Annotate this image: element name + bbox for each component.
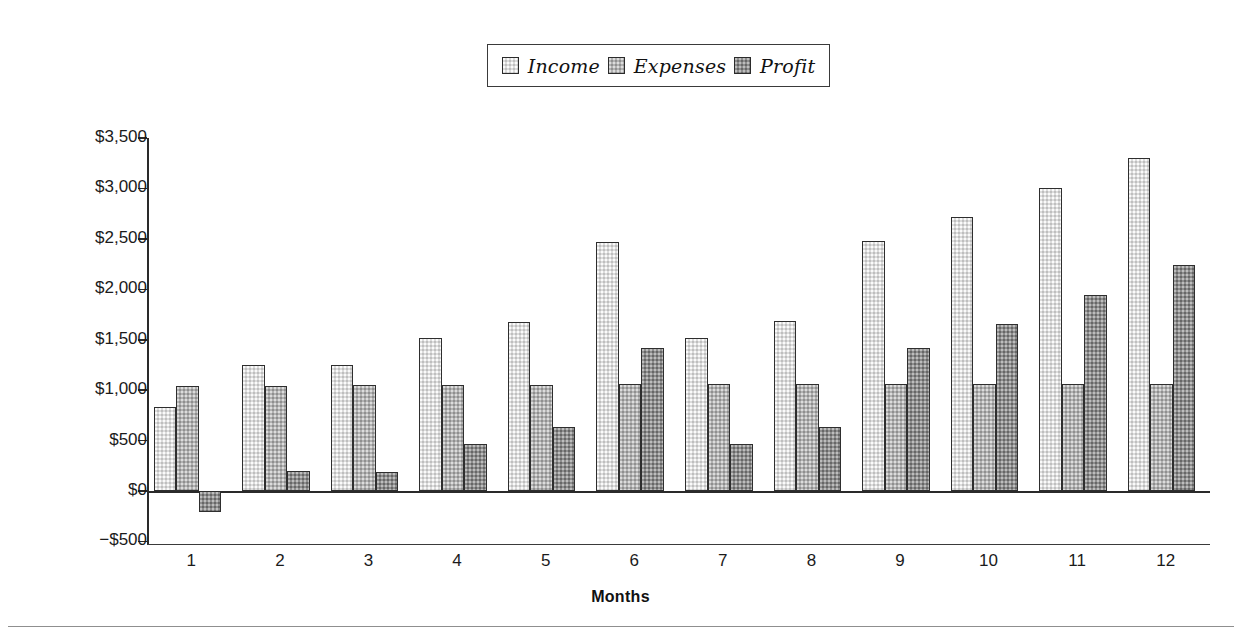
bar-profit xyxy=(996,324,1019,491)
x-tick-label: 5 xyxy=(541,551,550,571)
x-tick-label: 3 xyxy=(364,551,373,571)
bar-income xyxy=(685,338,708,491)
y-tick-label: $2,500 xyxy=(0,228,161,248)
bar-profit xyxy=(641,348,664,491)
bar-expenses xyxy=(973,384,996,491)
y-tick-label: $3,000 xyxy=(0,177,161,197)
bar-income xyxy=(596,242,619,491)
bar-profit xyxy=(819,427,842,491)
bar-income xyxy=(862,241,885,491)
bar-profit xyxy=(1173,265,1196,491)
x-tick-label: 11 xyxy=(1068,551,1086,571)
plot-area: $3,500$3,000$2,500$2,000$1,500$1,000$500… xyxy=(0,0,1241,639)
bar-chart-figure: Income Expenses Profit $3,500$3,000$2,50… xyxy=(0,0,1241,639)
bar-profit xyxy=(553,427,576,491)
bar-expenses xyxy=(708,384,731,491)
bar-expenses xyxy=(619,384,642,491)
bar-expenses xyxy=(885,384,908,491)
bar-income xyxy=(154,407,177,491)
bar-profit xyxy=(287,471,310,491)
bar-income xyxy=(774,321,797,491)
y-tick-label: $1,500 xyxy=(0,329,161,349)
y-tick-label: $1,000 xyxy=(0,379,161,399)
bar-profit xyxy=(199,491,222,512)
x-tick-label: 9 xyxy=(895,551,904,571)
bar-expenses xyxy=(176,386,199,491)
bar-profit xyxy=(376,472,399,491)
bar-profit xyxy=(907,348,930,491)
bar-expenses xyxy=(1150,384,1173,491)
bar-income xyxy=(1128,158,1151,491)
bar-income xyxy=(508,322,531,491)
bar-expenses xyxy=(530,385,553,491)
y-tick-label: $0 xyxy=(0,480,161,500)
bar-profit xyxy=(1084,295,1107,491)
x-tick-label: 7 xyxy=(718,551,727,571)
bar-expenses xyxy=(442,385,465,491)
page-bottom-rule xyxy=(8,626,1234,627)
x-tick-label: 1 xyxy=(187,551,196,571)
bar-income xyxy=(331,365,354,491)
bar-income xyxy=(242,365,265,491)
bar-expenses xyxy=(353,385,376,491)
x-tick-label: 8 xyxy=(807,551,816,571)
bar-income xyxy=(419,338,442,491)
bar-expenses xyxy=(1062,384,1085,491)
bar-expenses xyxy=(796,384,819,491)
bar-profit xyxy=(730,444,753,491)
x-axis-line xyxy=(147,544,1210,545)
x-axis-title: Months xyxy=(0,588,1241,606)
y-tick-label: $2,000 xyxy=(0,278,161,298)
y-tick-label: −$500 xyxy=(0,530,161,550)
bar-income xyxy=(1039,188,1062,491)
x-tick-label: 12 xyxy=(1156,551,1175,571)
bar-expenses xyxy=(265,386,288,491)
zero-baseline xyxy=(147,491,1210,493)
x-tick-label: 2 xyxy=(275,551,284,571)
x-tick-label: 10 xyxy=(979,551,998,571)
bar-income xyxy=(951,217,974,491)
y-tick-label: $500 xyxy=(0,430,161,450)
y-tick-label: $3,500 xyxy=(0,127,161,147)
x-tick-label: 6 xyxy=(629,551,638,571)
x-tick-label: 4 xyxy=(452,551,461,571)
bar-profit xyxy=(464,444,487,491)
